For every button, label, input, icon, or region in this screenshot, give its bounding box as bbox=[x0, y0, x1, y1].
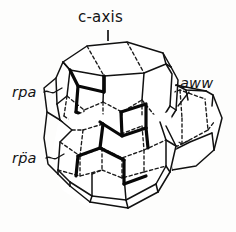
rpa-lower-label: rp̈a bbox=[12, 150, 37, 166]
crystal-figure: c-axis bbox=[0, 0, 236, 232]
rpa-upper-label: rpa bbox=[12, 84, 37, 100]
crystal-drawing-svg: c-axis bbox=[0, 0, 236, 232]
aww-label: aww bbox=[180, 75, 213, 91]
c-axis-label: c-axis bbox=[78, 8, 123, 26]
